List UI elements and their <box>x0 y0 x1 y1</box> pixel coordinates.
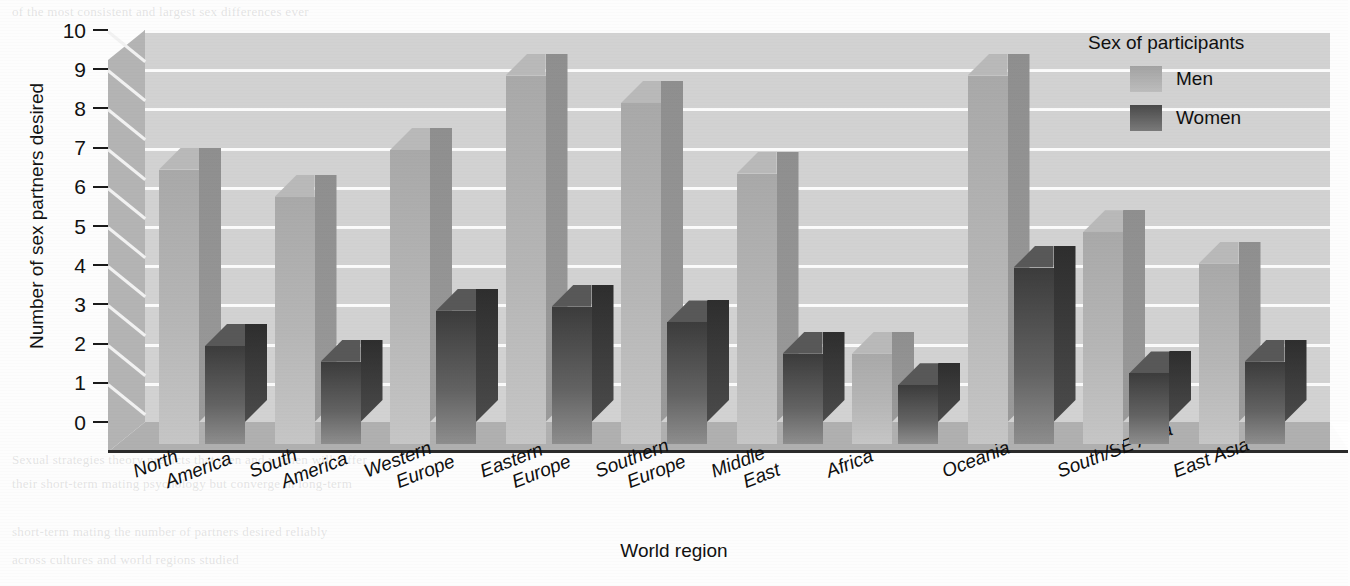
bar-front-face <box>436 311 476 444</box>
y-tick-label: 6 <box>74 176 86 197</box>
y-tick-7: 7 <box>74 138 108 158</box>
y-tick-mark <box>93 68 108 70</box>
bar-front-face <box>737 174 777 444</box>
gridline-7 <box>145 148 1330 151</box>
y-tick-4: 4 <box>74 255 108 275</box>
y-tick-9: 9 <box>74 59 108 79</box>
y-tick-mark <box>93 147 108 149</box>
bar-men-2[interactable] <box>390 150 430 444</box>
y-axis-ticks: 109876543210 <box>40 0 108 586</box>
bar-front-face <box>898 385 938 444</box>
bar-front-face <box>968 76 1008 444</box>
y-tick-mark <box>93 343 108 345</box>
bar-women-5[interactable] <box>783 354 823 444</box>
bar-women-3[interactable] <box>552 307 592 444</box>
bar-men-3[interactable] <box>506 76 546 444</box>
legend-swatch-men <box>1130 66 1162 92</box>
bar-men-9[interactable] <box>1199 264 1239 444</box>
y-tick-mark <box>93 107 108 109</box>
bar-front-face <box>1245 362 1285 444</box>
y-tick-label: 9 <box>74 59 86 80</box>
y-tick-0: 0 <box>74 412 108 432</box>
legend-label-men: Men <box>1176 68 1213 90</box>
y-tick-3: 3 <box>74 294 108 314</box>
bar-front-face <box>1014 268 1054 444</box>
y-tick-label: 8 <box>74 98 86 119</box>
legend-swatch-women <box>1130 105 1162 131</box>
y-tick-2: 2 <box>74 334 108 354</box>
bar-front-face <box>1199 264 1239 444</box>
y-tick-label: 2 <box>74 333 86 354</box>
bar-front-face <box>1083 232 1123 444</box>
bar-front-face <box>667 322 707 444</box>
y-tick-5: 5 <box>74 216 108 236</box>
y-tick-mark <box>93 29 108 31</box>
bar-men-6[interactable] <box>852 354 892 444</box>
bar-front-face <box>783 354 823 444</box>
y-tick-label: 0 <box>74 412 86 433</box>
y-tick-1: 1 <box>74 373 108 393</box>
y-tick-mark <box>93 225 108 227</box>
bar-women-7[interactable] <box>1014 268 1054 444</box>
bar-front-face <box>852 354 892 444</box>
y-tick-8: 8 <box>74 98 108 118</box>
bar-women-6[interactable] <box>898 385 938 444</box>
y-tick-label: 5 <box>74 216 86 237</box>
bar-front-face <box>321 362 361 444</box>
bar-front-face <box>390 150 430 444</box>
bar-front-face <box>205 346 245 444</box>
x-axis-title: World region <box>0 540 1348 562</box>
bar-front-face <box>621 103 661 444</box>
bar-front-face <box>552 307 592 444</box>
y-tick-mark <box>93 382 108 384</box>
y-tick-label: 1 <box>74 372 86 393</box>
y-tick-10: 10 <box>63 20 108 40</box>
bar-side-face <box>476 289 498 422</box>
y-tick-label: 4 <box>74 255 86 276</box>
bar-front-face <box>159 170 199 444</box>
bar-women-1[interactable] <box>321 362 361 444</box>
legend: Sex of participants Men Women <box>1130 32 1244 144</box>
y-tick-6: 6 <box>74 177 108 197</box>
bar-side-face <box>592 285 614 422</box>
bar-women-2[interactable] <box>436 311 476 444</box>
y-tick-label: 7 <box>74 137 86 158</box>
y-tick-mark <box>93 303 108 305</box>
bar-women-9[interactable] <box>1245 362 1285 444</box>
legend-entry-men[interactable]: Men <box>1130 66 1244 92</box>
bar-front-face <box>506 76 546 444</box>
bar-men-8[interactable] <box>1083 232 1123 444</box>
bar-women-4[interactable] <box>667 322 707 444</box>
bar-front-face <box>1129 373 1169 444</box>
bar-women-0[interactable] <box>205 346 245 444</box>
legend-label-women: Women <box>1176 107 1241 129</box>
y-tick-label: 10 <box>63 20 86 41</box>
legend-title: Sex of participants <box>1088 32 1244 54</box>
bar-side-face <box>1054 246 1076 422</box>
bar-men-5[interactable] <box>737 174 777 444</box>
y-tick-mark <box>93 186 108 188</box>
bar-men-4[interactable] <box>621 103 661 444</box>
legend-entry-women[interactable]: Women <box>1130 105 1244 131</box>
bar-men-0[interactable] <box>159 170 199 444</box>
bar-men-7[interactable] <box>968 76 1008 444</box>
bar-front-face <box>275 197 315 444</box>
y-tick-mark <box>93 421 108 423</box>
bar-men-1[interactable] <box>275 197 315 444</box>
y-tick-label: 3 <box>74 294 86 315</box>
bar-women-8[interactable] <box>1129 373 1169 444</box>
y-tick-mark <box>93 264 108 266</box>
